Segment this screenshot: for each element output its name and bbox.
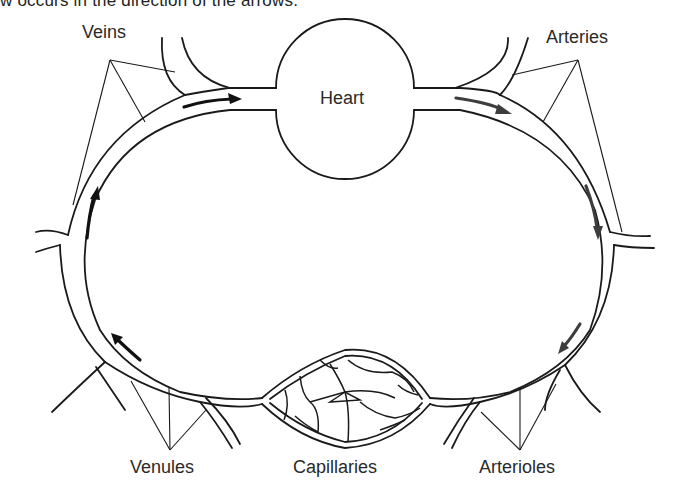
flow-arrow-artery-down [586,186,603,240]
flow-arrow-arteriole [558,324,580,354]
venules-leader [131,381,206,450]
flow-arrow-venule [111,333,140,360]
label-arteries: Arteries [546,27,608,48]
flow-arrow-veins-to-heart [184,93,242,107]
capillary-bed [262,350,430,448]
label-venules: Venules [130,457,194,478]
label-arterioles: Arterioles [479,457,555,478]
label-capillaries: Capillaries [293,457,377,478]
label-veins: Veins [82,22,126,43]
flow-arrow-vein-up [87,186,100,238]
arterioles-leader [481,384,556,450]
circulation-diagram [0,0,678,501]
vessel-inner-wall [85,110,603,448]
label-heart: Heart [320,88,364,109]
